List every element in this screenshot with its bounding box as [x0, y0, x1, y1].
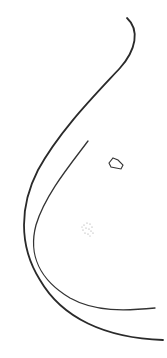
- line-drawing: [0, 0, 167, 358]
